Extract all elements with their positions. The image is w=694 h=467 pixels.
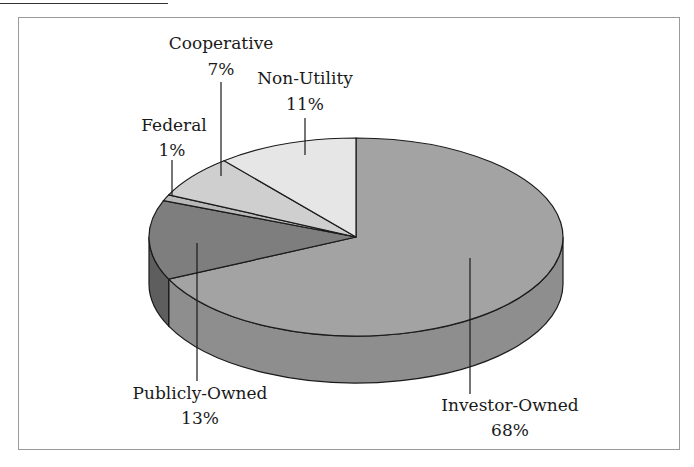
pie-chart: Cooperative 7% Non-Utility 11% Federal 1…	[0, 0, 694, 467]
label-cooperative-name: Cooperative	[169, 33, 274, 53]
label-non-utility-pct: 11%	[286, 94, 324, 114]
label-cooperative-pct: 7%	[208, 59, 235, 79]
label-investor-owned-pct: 68%	[491, 420, 529, 440]
label-publicly-owned-name: Publicly-Owned	[133, 383, 268, 403]
label-federal-name: Federal	[141, 115, 207, 135]
label-investor-owned-name: Investor-Owned	[441, 395, 578, 415]
label-publicly-owned-pct: 13%	[181, 408, 219, 428]
label-federal-pct: 1%	[159, 140, 186, 160]
label-non-utility-name: Non-Utility	[257, 68, 353, 88]
